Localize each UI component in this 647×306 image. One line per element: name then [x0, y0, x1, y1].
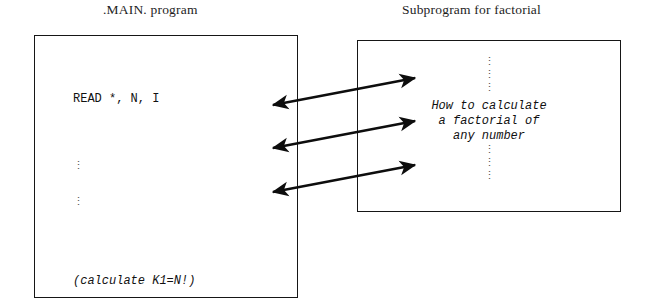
code-spacer: [73, 232, 224, 239]
main-program-code: READ *, N, I ⋮ ⋮ (calculate K1=N!) ⋮ ⋮ (…: [73, 57, 224, 306]
ellipsis-dot: ⋮: [73, 160, 224, 172]
ellipsis-dot: ⋮: [357, 170, 621, 183]
code-spacer: [73, 129, 224, 136]
subprogram-title: Subprogram for factorial: [402, 2, 541, 18]
subprogram-text-line-2: a factorial of: [357, 114, 621, 129]
subprogram-content: ⋮ ⋮ ⋮ How to calculate a factorial of an…: [357, 56, 621, 183]
ellipsis-dot: ⋮: [357, 82, 621, 95]
ellipsis-dot: ⋮: [357, 157, 621, 170]
code-line-k1: (calculate K1=N!): [73, 275, 224, 287]
code-line-read: READ *, N, I: [73, 93, 224, 105]
ellipsis-dot: ⋮: [357, 144, 621, 157]
diagram-canvas: .MAIN. program Subprogram for factorial …: [0, 0, 647, 306]
subprogram-text-line-1: How to calculate: [357, 99, 621, 114]
ellipsis-dot: ⋮: [73, 196, 224, 208]
subprogram-text-line-3: any number: [357, 129, 621, 144]
main-program-title: .MAIN. program: [103, 2, 198, 18]
ellipsis-dot: ⋮: [357, 56, 621, 69]
ellipsis-dot: ⋮: [357, 69, 621, 82]
